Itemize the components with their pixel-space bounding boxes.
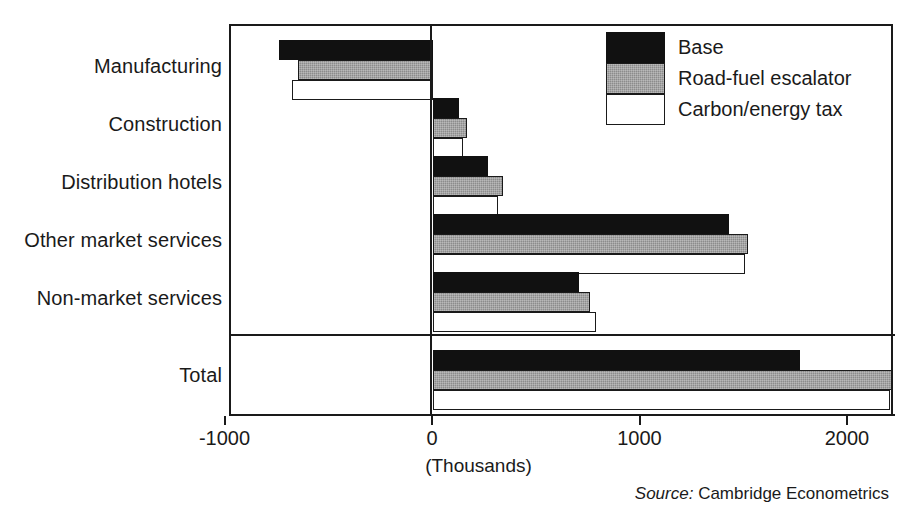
horizontal-bar-chart: Manufacturing Construction Distribution … [0, 0, 897, 510]
legend-swatch-carbon-energy-icon [606, 94, 665, 125]
bar-manufacturing-base [279, 40, 433, 60]
legend-label-road-fuel-escalator: Road-fuel escalator [678, 66, 851, 90]
category-label-distribution-hotels: Distribution hotels [61, 172, 222, 192]
bar-total-carbon-energy-tax [433, 390, 890, 410]
x-tick-label-minus1000: -1000 [165, 427, 285, 449]
category-label-construction: Construction [109, 114, 222, 134]
source-label: Source: [635, 484, 694, 503]
x-axis-unit-label: (Thousands) [0, 455, 897, 477]
bar-construction-base [433, 98, 459, 118]
bar-construction-carbon-energy-tax [433, 138, 463, 158]
source-value: Cambridge Econometrics [698, 484, 889, 503]
category-label-non-market-services: Non-market services [37, 288, 222, 308]
legend-label-carbon-energy-tax: Carbon/energy tax [678, 97, 843, 121]
bar-distribution-hotels-carbon-energy-tax [433, 196, 498, 216]
bar-other-market-services-road-fuel-escalator [433, 234, 748, 254]
x-tick-label-1000: 1000 [580, 427, 700, 449]
bar-construction-road-fuel-escalator [433, 118, 467, 138]
legend-swatch-road-fuel-icon [606, 63, 665, 94]
bar-manufacturing-carbon-energy-tax [292, 80, 433, 100]
x-tick-0 [431, 416, 433, 425]
source-note: Source: Cambridge Econometrics [635, 484, 889, 504]
bar-distribution-hotels-base [433, 156, 488, 176]
total-separator-line [229, 334, 895, 336]
bar-distribution-hotels-road-fuel-escalator [433, 176, 503, 196]
bar-non-market-services-base [433, 272, 579, 292]
x-tick-label-2000: 2000 [787, 427, 897, 449]
legend-item-base: Base [606, 32, 891, 63]
chart-legend: Base Road-fuel escalator Carbon/energy t… [606, 32, 891, 125]
category-label-total: Total [179, 365, 222, 385]
zero-axis-line [430, 24, 432, 416]
bar-non-market-services-carbon-energy-tax [433, 312, 596, 332]
x-tick-2000 [846, 416, 848, 425]
x-axis-line [229, 414, 895, 416]
legend-item-carbon-energy-tax: Carbon/energy tax [606, 94, 891, 125]
plot-right-border [891, 26, 893, 416]
bar-manufacturing-road-fuel-escalator [298, 60, 433, 80]
legend-label-base: Base [678, 35, 724, 59]
legend-item-road-fuel-escalator: Road-fuel escalator [606, 63, 891, 94]
bar-non-market-services-road-fuel-escalator [433, 292, 590, 312]
x-tick-label-0: 0 [372, 427, 492, 449]
bar-other-market-services-base [433, 214, 729, 234]
bar-total-base [433, 350, 800, 370]
bar-other-market-services-carbon-energy-tax [433, 254, 745, 274]
legend-swatch-base-icon [606, 32, 665, 63]
x-tick-minus1000 [224, 416, 226, 425]
category-label-other-market-services: Other market services [24, 230, 222, 250]
x-tick-1000 [639, 416, 641, 425]
bar-total-road-fuel-escalator [433, 370, 892, 390]
category-label-manufacturing: Manufacturing [94, 56, 222, 76]
